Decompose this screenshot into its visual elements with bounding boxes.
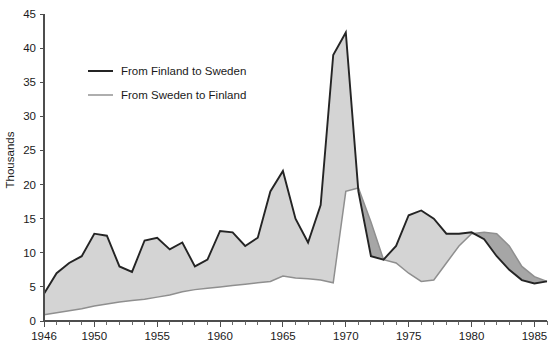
x-axis-ticks [44, 321, 547, 327]
y-tick-label-10: 10 [23, 247, 36, 259]
y-tick-label-30: 30 [23, 110, 36, 122]
y-tick-label-20: 20 [23, 179, 36, 191]
y-axis-tick-labels: 051015202530354045 [23, 8, 36, 327]
x-tick-label-1960: 1960 [207, 330, 233, 342]
y-axis-title: Thousands [4, 131, 16, 188]
x-tick-label-1980: 1980 [459, 330, 485, 342]
y-tick-label-45: 45 [23, 8, 36, 20]
figure-caption [0, 349, 555, 353]
y-tick-label-5: 5 [30, 281, 36, 293]
light-band-finland-above-sweden [44, 32, 474, 314]
area-bands [44, 32, 547, 314]
legend-item-from-finland-to-sweden: From Finland to Sweden [88, 65, 246, 77]
chart-legend: From Finland to Sweden From Sweden to Fi… [88, 65, 246, 101]
y-tick-label-0: 0 [30, 315, 36, 327]
x-tick-label-1965: 1965 [270, 330, 296, 342]
legend-item-from-sweden-to-finland: From Sweden to Finland [88, 89, 246, 101]
y-tick-label-25: 25 [23, 144, 36, 156]
legend-label-from-finland-to-sweden: From Finland to Sweden [121, 65, 246, 77]
y-tick-label-40: 40 [23, 42, 36, 54]
y-axis-ticks [40, 14, 44, 321]
x-tick-label-1970: 1970 [333, 330, 359, 342]
migration-chart: 051015202530354045 194619501955196019651… [0, 0, 555, 353]
y-tick-label-15: 15 [23, 213, 36, 225]
chart-plot-area: 051015202530354045 194619501955196019651… [0, 0, 555, 353]
y-axis-title-group: Thousands [4, 131, 16, 188]
x-tick-label-1946: 1946 [31, 330, 57, 342]
x-tick-label-1955: 1955 [144, 330, 170, 342]
y-tick-label-35: 35 [23, 76, 36, 88]
x-axis-tick-labels: 194619501955196019651970197519801985 [31, 330, 547, 342]
legend-label-from-sweden-to-finland: From Sweden to Finland [121, 89, 246, 101]
x-tick-label-1950: 1950 [82, 330, 108, 342]
x-tick-label-1985: 1985 [522, 330, 548, 342]
x-tick-label-1975: 1975 [396, 330, 422, 342]
